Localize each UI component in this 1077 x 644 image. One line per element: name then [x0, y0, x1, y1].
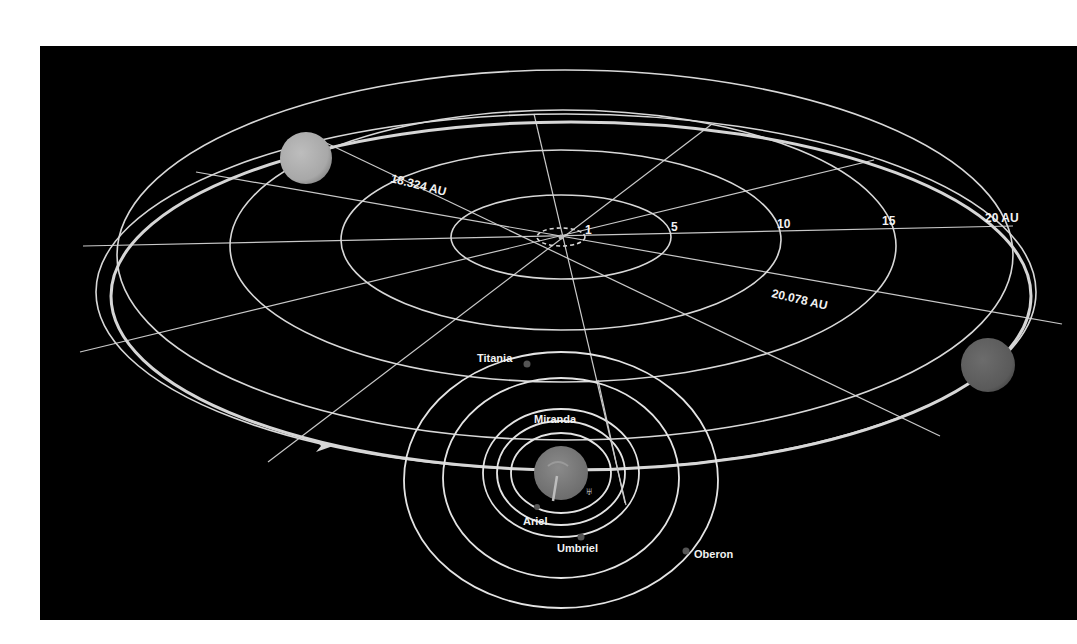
perihelion-distance-label: 18.324 AU	[389, 171, 448, 198]
scale-label-5: 5	[671, 220, 678, 234]
umbriel-label: Umbriel	[557, 542, 598, 554]
uranus-orbit-diagram: 18.324 AU 20.078 AU 1 5 10 15 20 AU ♅ Ti…	[0, 0, 1077, 644]
scale-label-10: 10	[777, 217, 791, 231]
ariel-moon	[534, 504, 540, 510]
aphelion-distance-label: 20.078 AU	[770, 286, 829, 312]
uranus-aphelion-position	[961, 338, 1015, 392]
scale-label-20: 20 AU	[985, 211, 1019, 225]
sun-marker	[559, 235, 564, 240]
oberon-moon	[683, 548, 690, 555]
uranus-symbol-icon: ♅	[585, 485, 593, 497]
uranus-current-position: ♅	[534, 446, 593, 501]
oberon-label: Oberon	[694, 548, 733, 560]
miranda-label: Miranda	[534, 413, 577, 425]
scale-label-1: 1	[585, 223, 592, 237]
titania-moon	[524, 361, 531, 368]
scale-rings	[117, 70, 1013, 440]
ariel-label: Ariel	[523, 515, 547, 527]
scale-label-15: 15	[882, 214, 896, 228]
uranus-perihelion-position	[280, 132, 332, 184]
titania-label: Titania	[477, 352, 513, 364]
umbriel-moon	[578, 534, 585, 541]
